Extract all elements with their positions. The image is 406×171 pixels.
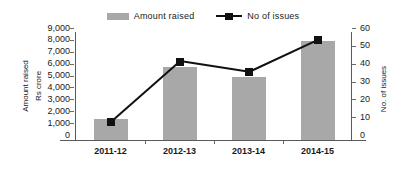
y-axis-left-tick-label: 1,000 — [47, 119, 70, 128]
x-axis-category-labels: 2011-122012-132013-142014-15 — [76, 146, 352, 162]
y-axis-left-tick-mark — [70, 87, 74, 88]
line-marker-2014-15 — [314, 36, 322, 44]
y-axis-right-tick-label: 50 — [360, 41, 370, 50]
x-axis-line — [60, 140, 366, 141]
legend-item-no-of-issues: No of issues — [216, 11, 299, 21]
y-axis-right-tick-label: 0 — [360, 131, 365, 140]
x-axis-label-2011-12: 2011-12 — [94, 146, 127, 156]
y-axis-right-tick-label: 20 — [360, 95, 370, 104]
y-axis-right-tick-mark — [352, 46, 356, 47]
y-axis-left-tick-mark — [70, 123, 74, 124]
line-marker-swatch-icon — [216, 12, 242, 21]
bar-swatch-icon — [107, 13, 129, 20]
y-axis-left-tick-mark — [70, 28, 74, 29]
y-axis-left-tick-label: 7,000 — [47, 47, 70, 56]
y-axis-left-tick-label: 5,000 — [47, 71, 70, 80]
y-axis-left-tick-label: 0 — [65, 131, 70, 140]
x-axis-tick-mark — [145, 141, 146, 144]
bar-2013-14 — [232, 77, 266, 140]
x-axis-tick-mark — [214, 141, 215, 144]
y-axis-left-tick-mark — [70, 76, 74, 77]
y-axis-left-tick-label: 8,000 — [47, 35, 70, 44]
y-axis-right-ticks: 0102030405060 — [352, 28, 376, 140]
y-axis-left-tick-mark — [70, 99, 74, 100]
line-marker-2011-12 — [107, 118, 115, 126]
y-axis-title-left-line1: Amount raised — [21, 60, 30, 112]
legend-label-no-of-issues: No of issues — [247, 11, 299, 21]
y-axis-left-tick-label: 6,000 — [47, 59, 70, 68]
y-axis-right-tick-label: 30 — [360, 77, 370, 86]
line-marker-2013-14 — [245, 68, 253, 76]
y-axis-left-tick-mark — [70, 111, 74, 112]
y-axis-right-tick-label: 60 — [360, 24, 370, 33]
x-axis-label-2012-13: 2012-13 — [163, 146, 196, 156]
y-axis-left-ticks: 01,0002,0003,0004,0005,0006,0007,0008,00… — [40, 28, 74, 140]
y-axis-right-tick-mark — [352, 82, 356, 83]
chart-legend: Amount raised No of issues — [0, 8, 406, 24]
x-axis-tick-mark — [283, 141, 284, 144]
y-axis-right-tick-label: 40 — [360, 59, 370, 68]
y-axis-title-right: No. of issues — [376, 58, 390, 120]
y-axis-title-left: Amount raised — [18, 44, 32, 128]
x-axis-label-2014-15: 2014-15 — [301, 146, 334, 156]
legend-label-amount-raised: Amount raised — [134, 11, 195, 21]
x-axis-label-2013-14: 2013-14 — [232, 146, 265, 156]
y-axis-left-tick-label: 9,000 — [47, 24, 70, 33]
bar-2014-15 — [301, 41, 335, 140]
y-axis-left-tick-mark — [70, 40, 74, 41]
y-axis-left-tick-label: 3,000 — [47, 95, 70, 104]
chart-container: Amount raised No of issues Amount raised… — [0, 0, 406, 171]
bar-2012-13 — [163, 67, 197, 140]
legend-item-amount-raised: Amount raised — [107, 11, 195, 21]
y-axis-right-tick-mark — [352, 99, 356, 100]
y-axis-right-tick-mark — [352, 117, 356, 118]
y-axis-left-tick-label: 2,000 — [47, 107, 70, 116]
plot-area — [76, 33, 352, 140]
line-marker-2012-13 — [176, 58, 184, 66]
y-axis-right-tick-mark — [352, 28, 356, 29]
y-axis-title-right-text: No. of issues — [379, 66, 388, 112]
y-axis-left-tick-label: 4,000 — [47, 83, 70, 92]
y-axis-right-tick-label: 10 — [360, 113, 370, 122]
y-axis-left-tick-mark — [70, 52, 74, 53]
y-axis-right-tick-mark — [352, 64, 356, 65]
y-axis-left-tick-mark — [70, 64, 74, 65]
